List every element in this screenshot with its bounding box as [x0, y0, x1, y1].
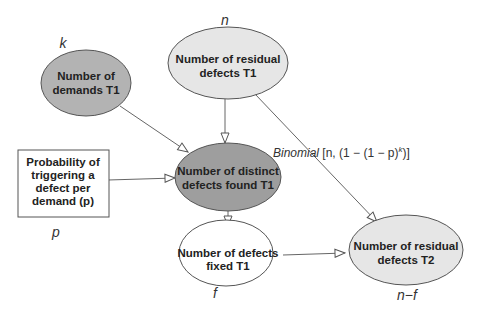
variable-n: n [221, 12, 229, 28]
node-label-line: Probability of [26, 156, 100, 168]
node-label-line: triggering a [31, 169, 95, 181]
node-label-line: defect per [36, 182, 91, 194]
variable-p: p [51, 224, 60, 240]
node-label-line: Number of defects [178, 247, 279, 259]
node-label-line: Number of [57, 70, 115, 82]
binomial-params: [n, (1 − (1 − p) [319, 146, 398, 160]
node-number-of-demands-t1: Number of demands T1 k [41, 35, 131, 116]
edge-demands-to-distinct [120, 106, 188, 152]
variable-f: f [213, 285, 219, 301]
binomial-close: )] [402, 146, 409, 160]
node-number-of-residual-defects-t2: Number of residual defects T2 n−f [349, 215, 463, 303]
node-label-line: demands T1 [52, 84, 120, 96]
edge-probability-to-distinct [108, 178, 175, 180]
node-number-of-defects-fixed-t1: Number of defects fixed T1 f [178, 220, 279, 301]
node-label-line: fixed T1 [206, 260, 250, 272]
binomial-word: Binomial [273, 146, 319, 160]
node-label-line: defects T2 [378, 254, 435, 266]
variable-k: k [60, 35, 68, 51]
binomial-distribution-label: Binomial [n, (1 − (1 − p)k)] [273, 145, 410, 160]
binomial-formula: Binomial [n, (1 − (1 − p)k)] [273, 145, 410, 160]
node-probability-of-triggering: Probability of triggering a defect per d… [18, 150, 109, 240]
variable-n-minus-f: n−f [397, 287, 419, 303]
node-label-line: defects T1 [200, 67, 257, 79]
node-label-line: Number of residual [354, 240, 459, 252]
bayesian-network-diagram: Number of demands T1 k Number of residua… [0, 0, 481, 315]
node-number-of-distinct-defects-found-t1: Number of distinct defects found T1 [175, 143, 281, 211]
edge-fixed-to-residual-t2 [283, 253, 345, 255]
node-number-of-residual-defects-t1: Number of residual defects T1 n [168, 12, 288, 99]
node-label-line: demand (p) [32, 195, 94, 207]
node-label-line: Number of residual [176, 53, 281, 65]
node-label-line: defects found T1 [182, 179, 275, 191]
node-label-line: Number of distinct [177, 165, 279, 177]
